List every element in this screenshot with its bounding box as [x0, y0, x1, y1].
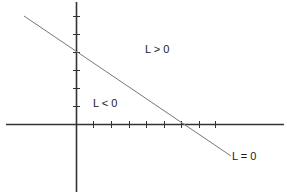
- label-l-positive: L > 0: [145, 43, 169, 55]
- boundary-line: [24, 16, 231, 156]
- label-l-negative: L < 0: [93, 97, 117, 109]
- label-l-zero: L = 0: [232, 150, 256, 162]
- diagram-canvas: L > 0 L < 0 L = 0: [0, 0, 287, 192]
